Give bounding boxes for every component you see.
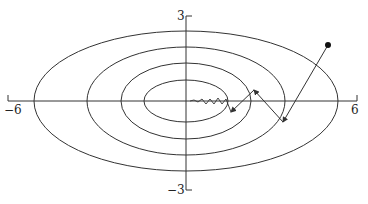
x-max-label: 6: [351, 104, 359, 116]
y-max-label: 3: [177, 10, 185, 22]
start-point: [325, 42, 331, 48]
x-min-label: −6: [4, 104, 22, 116]
step-2-arrow: [254, 90, 283, 122]
contour-plot: [0, 0, 368, 204]
step-1-arrow: [283, 45, 328, 122]
y-min-label: −3: [167, 184, 185, 196]
